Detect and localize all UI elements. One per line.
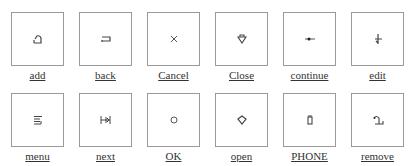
phone-button[interactable] bbox=[283, 93, 336, 147]
ok-button[interactable] bbox=[147, 93, 200, 147]
open-button[interactable] bbox=[215, 93, 268, 147]
menu-icon bbox=[32, 114, 44, 126]
phone-label[interactable]: PHONE bbox=[291, 150, 328, 163]
continue-button[interactable] bbox=[283, 12, 336, 66]
add-icon bbox=[32, 33, 44, 45]
button-cell-continue: continue bbox=[283, 12, 336, 82]
remove-button[interactable] bbox=[351, 93, 404, 147]
back-icon bbox=[100, 33, 112, 45]
open-label[interactable]: open bbox=[231, 150, 252, 163]
edit-button[interactable] bbox=[351, 12, 404, 66]
next-icon bbox=[100, 114, 112, 126]
icon-button-grid: add back Cancel Close continue edit bbox=[11, 12, 404, 163]
button-cell-ok: OK bbox=[147, 93, 200, 163]
close-button[interactable] bbox=[215, 12, 268, 66]
button-cell-open: open bbox=[215, 93, 268, 163]
button-cell-menu: menu bbox=[11, 93, 64, 163]
phone-icon bbox=[304, 114, 316, 126]
button-cell-close: Close bbox=[215, 12, 268, 82]
cancel-label[interactable]: Cancel bbox=[158, 69, 189, 82]
continue-icon bbox=[304, 33, 316, 45]
button-cell-back: back bbox=[79, 12, 132, 82]
add-label[interactable]: add bbox=[30, 69, 46, 82]
button-cell-add: add bbox=[11, 12, 64, 82]
next-button[interactable] bbox=[79, 93, 132, 147]
continue-label[interactable]: continue bbox=[291, 69, 329, 82]
ok-label[interactable]: OK bbox=[166, 150, 182, 163]
button-cell-phone: PHONE bbox=[283, 93, 336, 163]
cancel-button[interactable] bbox=[147, 12, 200, 66]
ok-icon bbox=[168, 114, 180, 126]
remove-label[interactable]: remove bbox=[361, 150, 394, 163]
button-cell-remove: remove bbox=[351, 93, 404, 163]
back-label[interactable]: back bbox=[95, 69, 116, 82]
edit-icon bbox=[372, 33, 384, 45]
menu-label[interactable]: menu bbox=[25, 150, 49, 163]
edit-label[interactable]: edit bbox=[369, 69, 386, 82]
button-cell-cancel: Cancel bbox=[147, 12, 200, 82]
menu-button[interactable] bbox=[11, 93, 64, 147]
close-label[interactable]: Close bbox=[229, 69, 254, 82]
cancel-icon bbox=[168, 33, 180, 45]
open-icon bbox=[236, 114, 248, 126]
add-button[interactable] bbox=[11, 12, 64, 66]
button-cell-next: next bbox=[79, 93, 132, 163]
button-cell-edit: edit bbox=[351, 12, 404, 82]
close-icon bbox=[236, 33, 248, 45]
remove-icon bbox=[372, 114, 384, 126]
back-button[interactable] bbox=[79, 12, 132, 66]
next-label[interactable]: next bbox=[96, 150, 115, 163]
